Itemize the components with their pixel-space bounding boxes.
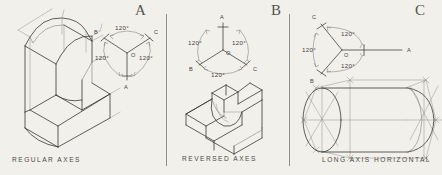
caption-long-axis-horizontal: LONG AXIS HORIZONTAL xyxy=(322,156,431,163)
axis-label-a: A xyxy=(124,84,128,90)
axis-label-b: B xyxy=(94,29,98,35)
isometric-object-reversed-bracket xyxy=(166,0,286,175)
isometric-axes-figure: A B C O 120° 120° 120° REGULAR AXES xyxy=(0,0,442,175)
panel-letter-b: B xyxy=(271,2,282,19)
angle-label-top: 120° xyxy=(115,24,129,31)
isometric-object-horizontal-cylinder xyxy=(286,0,442,175)
panel-divider-2 xyxy=(289,14,290,166)
axis-label-origin: O xyxy=(131,52,136,58)
panel-letter-c: C xyxy=(415,2,426,19)
angle-label-right: 120° xyxy=(139,54,153,61)
panel-divider-1 xyxy=(166,14,167,166)
caption-regular-axes: REGULAR AXES xyxy=(12,156,81,163)
angle-label-left: 120° xyxy=(95,54,109,61)
panel-reversed-axes: A B C O 120° 120° 120° xyxy=(166,0,286,175)
axis-label-c: C xyxy=(154,29,158,35)
caption-reversed-axes: REVERSED AXES xyxy=(182,155,257,162)
panel-regular-axes: A B C O 120° 120° 120° REGULAR AXES xyxy=(0,0,166,175)
panel-letter-a: A xyxy=(135,2,146,19)
axis-diagram-regular: A B C O 120° 120° 120° xyxy=(0,0,166,175)
panel-long-axis-horizontal: A B C O 120° 120° 120° xyxy=(286,0,442,175)
